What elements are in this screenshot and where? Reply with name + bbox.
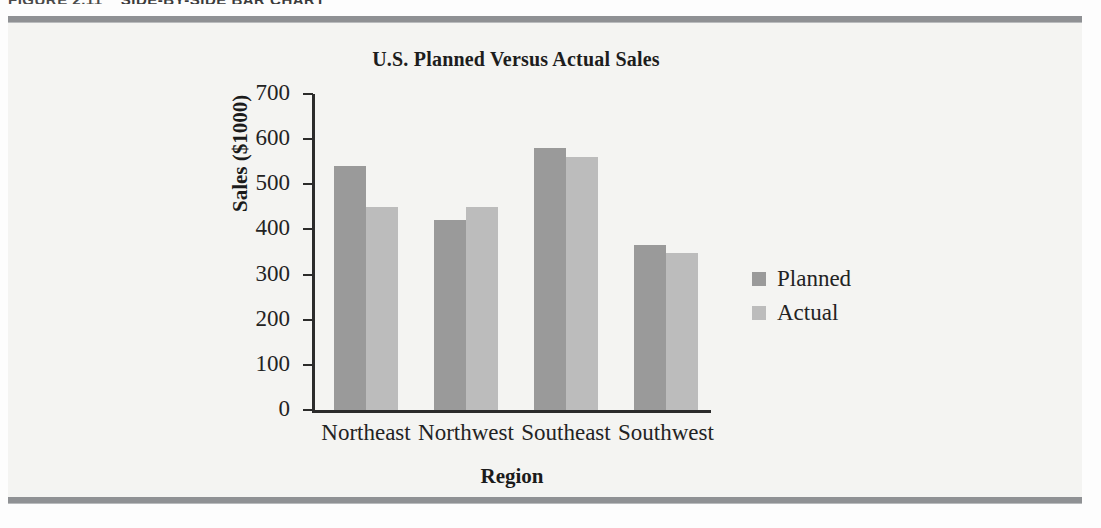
bar-actual-northeast[interactable] <box>366 207 398 410</box>
bar-planned-southwest[interactable] <box>634 245 666 410</box>
y-tick-300: 300 <box>303 274 313 276</box>
bar-actual-northwest[interactable] <box>466 207 498 410</box>
legend-item-planned[interactable]: Planned <box>752 262 851 296</box>
y-tick-600: 600 <box>303 138 313 140</box>
figure-caption: FIGURE 2.11SIDE-BY-SIDE BAR CHART <box>8 0 325 4</box>
x-axis-line <box>312 410 711 413</box>
figure-rule-bottom <box>8 497 1082 503</box>
x-axis-label-southwest: Southwest <box>596 420 736 446</box>
legend-label-planned: Planned <box>777 266 851 292</box>
y-tick-label-600: 600 <box>228 125 290 151</box>
bar-chart: U.S. Planned Versus Actual Sales Sales (… <box>0 26 1101 492</box>
y-tick-label-0: 0 <box>228 396 290 422</box>
legend-swatch-icon-planned <box>752 272 766 286</box>
y-tick-700: 700 <box>303 93 313 95</box>
plot-area: 0100200300400500600700 NortheastNorthwes… <box>312 94 712 410</box>
bar-planned-northwest[interactable] <box>434 220 466 410</box>
chart-legend: Planned Actual <box>752 262 851 330</box>
y-tick-500: 500 <box>303 183 313 185</box>
y-tick-0: 0 <box>303 409 313 411</box>
y-tick-label-700: 700 <box>228 80 290 106</box>
y-tick-label-500: 500 <box>228 170 290 196</box>
figure-page: FIGURE 2.11SIDE-BY-SIDE BAR CHART U.S. P… <box>0 0 1101 528</box>
y-tick-label-400: 400 <box>228 215 290 241</box>
legend-label-actual: Actual <box>777 300 838 326</box>
bar-actual-southwest[interactable] <box>666 253 698 410</box>
figure-caption-text: SIDE-BY-SIDE BAR CHART <box>121 0 325 4</box>
bar-planned-southeast[interactable] <box>534 148 566 410</box>
bar-planned-northeast[interactable] <box>334 166 366 410</box>
figure-caption-number: FIGURE 2.11 <box>8 0 103 4</box>
y-tick-label-300: 300 <box>228 261 290 287</box>
chart-title: U.S. Planned Versus Actual Sales <box>236 48 796 71</box>
legend-swatch-icon-actual <box>752 306 766 320</box>
bar-actual-southeast[interactable] <box>566 157 598 410</box>
y-tick-200: 200 <box>303 319 313 321</box>
figure-rule-top <box>8 16 1082 22</box>
y-tick-label-100: 100 <box>228 351 290 377</box>
y-tick-400: 400 <box>303 228 313 230</box>
y-tick-100: 100 <box>303 364 313 366</box>
x-axis-title: Region <box>312 464 712 489</box>
y-tick-label-200: 200 <box>228 306 290 332</box>
legend-item-actual[interactable]: Actual <box>752 296 851 330</box>
